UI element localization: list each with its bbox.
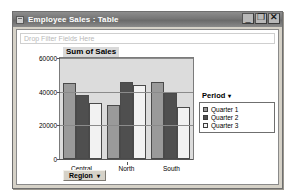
- close-button[interactable]: ✕: [268, 13, 280, 24]
- minimize-button[interactable]: _: [242, 13, 254, 24]
- bar[interactable]: [151, 82, 164, 159]
- chevron-down-icon: ▾: [97, 173, 100, 179]
- legend-field-button[interactable]: Period ▾: [199, 91, 275, 102]
- bar[interactable]: [89, 103, 102, 159]
- region-field-button[interactable]: Region ▾: [63, 170, 106, 181]
- y-axis-tick-label: 40000: [39, 88, 57, 95]
- bar[interactable]: [76, 95, 89, 159]
- gridline: [60, 58, 193, 59]
- bar[interactable]: [133, 85, 146, 159]
- bar[interactable]: [107, 105, 120, 159]
- legend: Period ▾ Quarter 1Quarter 2Quarter 3: [199, 91, 275, 133]
- legend-swatch: [203, 115, 208, 120]
- y-axis-tick-label: 20000: [39, 122, 57, 129]
- category-label: South: [149, 165, 194, 172]
- category-label: North: [104, 165, 149, 172]
- bar[interactable]: [63, 83, 76, 159]
- window-title: Employee Sales : Table: [28, 12, 119, 27]
- minimize-icon: _: [243, 14, 253, 23]
- region-field-label: Region: [69, 172, 93, 179]
- legend-swatch: [203, 107, 208, 112]
- bar-group: [149, 58, 193, 159]
- y-axis-tick: [57, 125, 60, 126]
- legend-item-label: Quarter 1: [211, 106, 238, 113]
- gridline: [60, 92, 193, 93]
- legend-item-label: Quarter 2: [211, 114, 238, 121]
- access-pivotchart-window: Employee Sales : Table _ ❐ ✕ Drop Filter…: [12, 11, 283, 189]
- gridline: [60, 159, 193, 160]
- window-titlebar[interactable]: Employee Sales : Table _ ❐ ✕: [13, 12, 282, 27]
- legend-item[interactable]: Quarter 3: [203, 122, 271, 129]
- bar-group: [60, 58, 104, 159]
- bar[interactable]: [120, 82, 133, 159]
- legend-swatch: [203, 123, 208, 128]
- chart-title: Sum of Sales: [63, 47, 119, 57]
- bar[interactable]: [177, 107, 190, 159]
- pivotchart-client-area: Drop Filter Fields Here Sum of Sales 020…: [16, 29, 279, 185]
- y-axis-tick-label: 60000: [39, 55, 57, 62]
- screenshot-root: Employee Sales : Table _ ❐ ✕ Drop Filter…: [0, 0, 295, 196]
- chart-area: Sum of Sales 0200004000060000 CentralNor…: [17, 47, 278, 184]
- y-axis-tick: [57, 58, 60, 59]
- close-icon: ✕: [269, 13, 279, 22]
- legend-title: Period: [202, 91, 225, 100]
- legend-item-label: Quarter 3: [211, 122, 238, 129]
- maximize-button[interactable]: ❐: [255, 13, 267, 24]
- legend-items: Quarter 1Quarter 2Quarter 3: [199, 102, 275, 133]
- legend-item[interactable]: Quarter 2: [203, 114, 271, 121]
- y-axis-tick: [57, 159, 60, 160]
- maximize-icon: ❐: [256, 13, 266, 22]
- bar-groups: [60, 58, 193, 159]
- window-controls: _ ❐ ✕: [242, 13, 280, 24]
- chevron-down-icon: ▾: [228, 93, 231, 99]
- table-window-icon: [16, 16, 24, 24]
- filter-drop-zone[interactable]: Drop Filter Fields Here: [20, 33, 275, 44]
- x-axis-tick: [127, 162, 128, 165]
- filter-drop-zone-label: Drop Filter Fields Here: [21, 34, 274, 44]
- gridline: [60, 125, 193, 126]
- legend-item[interactable]: Quarter 1: [203, 106, 271, 113]
- y-axis-tick: [57, 92, 60, 93]
- plot-area: 0200004000060000: [59, 57, 194, 160]
- bar-group: [104, 58, 148, 159]
